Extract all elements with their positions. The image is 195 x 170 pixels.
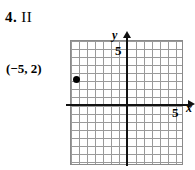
y-axis: [126, 34, 128, 166]
x-axis-tick-label-5: 5: [172, 106, 179, 119]
coordinate-plane: y x 5 5 (−5, 2): [70, 40, 184, 166]
problem-answer: II: [21, 9, 32, 25]
y-axis-arrow-icon: [123, 31, 131, 38]
y-axis-tick-label-5: 5: [115, 44, 122, 57]
y-axis-label: y: [112, 29, 117, 41]
problem-number: 4.: [5, 9, 17, 25]
plotted-point: [73, 76, 80, 83]
problem-label: 4.II: [5, 9, 32, 26]
x-axis-label: x: [186, 102, 192, 114]
plotted-point-label: (−5, 2): [6, 62, 42, 75]
